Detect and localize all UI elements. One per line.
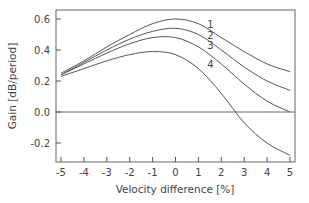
x-tick-label: 2	[218, 167, 224, 178]
plot-border	[56, 10, 295, 162]
curve-labels: 1234	[207, 19, 213, 70]
x-tick-label: 5	[287, 167, 293, 178]
x-tick-label: 0	[172, 167, 178, 178]
plot-frame	[56, 10, 295, 162]
x-tick-label: -2	[125, 167, 135, 178]
curve-label-2: 2	[207, 30, 213, 41]
x-tick-label: 3	[241, 167, 247, 178]
curve-label-4: 4	[207, 59, 213, 70]
y-tick-label: 0.4	[34, 45, 50, 56]
x-tick-label: -5	[56, 167, 66, 178]
x-tick-label: 4	[264, 167, 270, 178]
curve-label-1: 1	[207, 19, 213, 30]
x-tick-label: -1	[148, 167, 158, 178]
chart: 0.60.40.20.0-0.2 -5-4-3-2-1012345 1234 V…	[0, 0, 309, 203]
curves	[61, 19, 290, 155]
y-tick-label: 0.2	[34, 76, 50, 87]
x-axis-label: Velocity difference [%]	[116, 183, 235, 195]
y-tick-label: 0.0	[34, 107, 50, 118]
x-tick-label: -3	[102, 167, 112, 178]
y-tick-label: 0.6	[34, 14, 50, 25]
x-tick-label: 1	[195, 167, 201, 178]
curve-4	[61, 52, 290, 156]
x-tick-label: -4	[79, 167, 89, 178]
x-axis: -5-4-3-2-1012345	[56, 157, 293, 178]
y-axis-label: Gain [dB/period]	[6, 43, 18, 130]
y-tick-label: -0.2	[30, 138, 50, 149]
curve-label-3: 3	[207, 40, 213, 51]
